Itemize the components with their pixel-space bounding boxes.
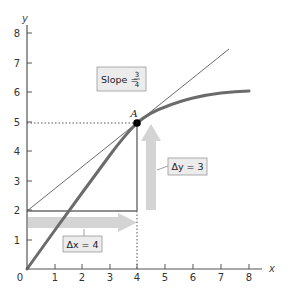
slope-numerator: 3 [135, 71, 139, 79]
x-tick-label: 2 [79, 272, 85, 283]
y-tick-label: 7 [14, 58, 20, 69]
y-tick-label: 3 [14, 176, 20, 187]
x-tick-label: 7 [218, 272, 224, 283]
slope-label: Slope = [101, 74, 138, 85]
x-tick-label: 0 [17, 272, 23, 283]
delta-x-arrow [28, 213, 137, 232]
y-tick-label: 6 [14, 87, 20, 98]
point-a-label: A [129, 108, 137, 119]
y-axis-label: y [21, 13, 29, 24]
x-tick-label: 4 [134, 272, 140, 283]
x-axis [27, 264, 262, 269]
slope-annotation: Slope = 3 4 [97, 67, 146, 91]
slope-denominator: 4 [135, 81, 140, 89]
y-tick-label: 1 [14, 235, 20, 246]
x-tick-label: 1 [52, 272, 58, 283]
delta-y-arrow [141, 124, 161, 210]
delta-x-label: Δx = 4 [66, 239, 98, 250]
delta-y-annotation: Δy = 3 [157, 158, 207, 175]
y-tick-label: 2 [14, 205, 20, 216]
delta-x-annotation: Δx = 4 [63, 229, 102, 252]
curve [27, 91, 249, 269]
y-axis [27, 25, 32, 269]
x-tick-label: 3 [107, 272, 113, 283]
slope-chart: 8 7 6 5 4 3 2 1 0 1 2 3 4 5 6 7 8 y x A … [0, 0, 291, 299]
point-a-marker [133, 119, 141, 127]
y-tick-label: 4 [14, 146, 20, 157]
y-tick-label: 8 [14, 28, 20, 39]
x-tick-label: 8 [246, 272, 252, 283]
x-tick-label: 6 [190, 272, 196, 283]
x-axis-label: x [268, 263, 275, 274]
delta-y-label: Δy = 3 [171, 161, 203, 172]
y-tick-label: 5 [14, 117, 20, 128]
x-tick-label: 5 [162, 272, 168, 283]
